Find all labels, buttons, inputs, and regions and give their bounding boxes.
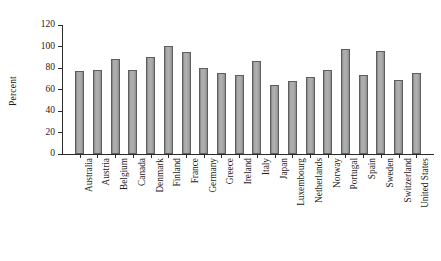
- x-tick-label: Japan: [279, 158, 289, 179]
- bar: [164, 46, 173, 154]
- y-axis-label-text: Percent: [8, 76, 18, 106]
- y-tick-label: 100: [41, 40, 55, 52]
- x-tick-label-group: AustraliaAustriaBelgiumCanadaDenmarkFinl…: [62, 158, 434, 258]
- plot-area: 020406080100120: [62, 25, 434, 154]
- bar: [252, 61, 261, 153]
- bar: [146, 57, 155, 154]
- bar: [128, 70, 137, 154]
- x-tick: [115, 154, 116, 158]
- bar: [323, 70, 332, 154]
- bar: [182, 52, 191, 153]
- bar: [93, 70, 102, 154]
- x-tick: [168, 154, 169, 158]
- x-tick-label: Denmark: [155, 158, 165, 193]
- x-tick: [204, 154, 205, 158]
- x-tick: [416, 154, 417, 158]
- x-tick: [275, 154, 276, 158]
- bar: [111, 59, 120, 154]
- x-tick: [151, 154, 152, 158]
- x-tick-label: Spain: [367, 158, 377, 179]
- x-tick-label: Netherlands: [314, 158, 324, 203]
- x-tick: [186, 154, 187, 158]
- y-axis-line: [62, 25, 63, 155]
- y-tick-label: 20: [46, 126, 56, 138]
- y-tick-label: 120: [41, 18, 55, 30]
- x-tick: [399, 154, 400, 158]
- y-tick: 20: [58, 132, 62, 133]
- x-tick-label: Germany: [208, 158, 218, 193]
- x-tick-label: Luxembourg: [296, 158, 306, 206]
- x-tick-label: Italy: [261, 158, 271, 175]
- y-axis-label: Percent: [6, 56, 20, 126]
- x-tick-label: Ireland: [243, 158, 253, 184]
- x-tick-label: Belgium: [119, 158, 129, 190]
- x-tick: [363, 154, 364, 158]
- bar-chart-figure: Percent 020406080100120 AustraliaAustria…: [0, 0, 441, 261]
- bar: [270, 85, 279, 154]
- x-tick-label: Norway: [332, 158, 342, 188]
- x-tick-label: Switzerland: [403, 158, 413, 202]
- x-tick-label: France: [190, 158, 200, 183]
- x-tick-label: Canada: [137, 158, 147, 186]
- bar: [306, 77, 315, 153]
- x-tick: [310, 154, 311, 158]
- bar: [412, 73, 421, 154]
- x-tick-label: United States: [420, 158, 430, 208]
- y-tick: 100: [58, 46, 62, 47]
- x-tick-label: Finland: [172, 158, 182, 186]
- y-tick-label: 60: [46, 83, 56, 95]
- x-axis-line: [62, 154, 434, 155]
- y-tick: 60: [58, 89, 62, 90]
- bar: [288, 81, 297, 153]
- y-tick: 80: [58, 68, 62, 69]
- x-tick: [239, 154, 240, 158]
- x-tick-label: Australia: [84, 158, 94, 192]
- y-tick-label: 0: [50, 147, 55, 159]
- x-tick: [221, 154, 222, 158]
- bar: [359, 75, 368, 153]
- bar: [199, 68, 208, 154]
- bar: [376, 51, 385, 153]
- x-tick: [381, 154, 382, 158]
- x-tick-label: Sweden: [385, 158, 395, 187]
- y-tick-label: 40: [46, 104, 56, 116]
- x-tick-label: Portugal: [349, 158, 359, 190]
- bar: [217, 73, 226, 154]
- x-tick: [133, 154, 134, 158]
- x-tick: [257, 154, 258, 158]
- y-tick: 40: [58, 111, 62, 112]
- y-tick: 120: [58, 25, 62, 26]
- bar: [235, 75, 244, 153]
- bar: [75, 71, 84, 154]
- bar: [341, 49, 350, 153]
- x-tick: [292, 154, 293, 158]
- x-tick: [328, 154, 329, 158]
- x-tick: [80, 154, 81, 158]
- bar: [394, 80, 403, 153]
- x-tick-label: Greece: [225, 158, 235, 184]
- y-tick-label: 80: [46, 61, 56, 73]
- x-tick-label: Austria: [101, 158, 111, 185]
- x-tick: [345, 154, 346, 158]
- x-tick: [97, 154, 98, 158]
- y-tick: 0: [58, 154, 62, 155]
